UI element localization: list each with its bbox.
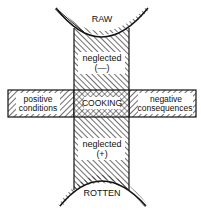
rotten-label: ROTTEN	[80, 188, 124, 198]
lower-neglected-line2: (+)	[76, 149, 128, 159]
lower-neglected-line1: neglected	[76, 139, 128, 149]
upper-neglected-line1: neglected	[76, 53, 128, 63]
left-box-line2: conditions	[12, 103, 64, 113]
raw-label: RAW	[86, 14, 118, 24]
upper-neglected-line2: (—)	[76, 63, 128, 73]
center-cooking-label: COOKING	[76, 98, 128, 108]
right-box-line2: consequences	[132, 103, 198, 113]
